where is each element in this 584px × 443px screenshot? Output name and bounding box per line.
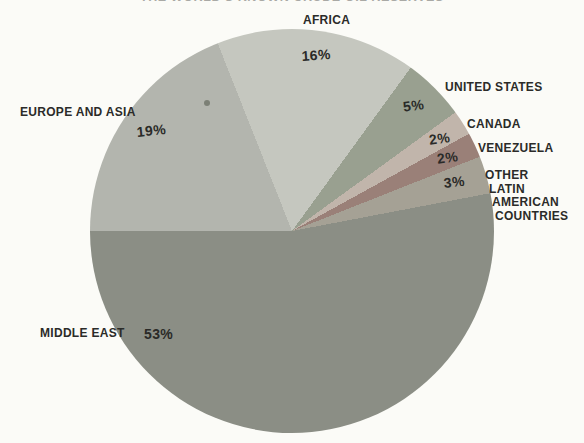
- chart-page: THE WORLD'S KNOWN CRUDE OIL RESERVES AFR…: [0, 0, 584, 443]
- slice-pct-africa: 16%: [301, 46, 331, 64]
- slice-label-other-line-4: COUNTRIES: [485, 210, 568, 224]
- slice-label-other-line-2: LATIN: [485, 183, 568, 197]
- slice-pct-canada: 2%: [428, 129, 451, 148]
- slice-pct-middle-east: 53%: [144, 326, 173, 342]
- slice-label-africa: AFRICA: [303, 13, 350, 27]
- slice-label-canada: CANADA: [467, 117, 521, 131]
- slice-label-venezuela: VENEZUELA: [478, 141, 553, 155]
- pie-chart: [90, 29, 494, 433]
- slice-pct-united-states: 5%: [402, 96, 425, 115]
- slice-pct-europe-and-asia: 19%: [136, 121, 167, 140]
- slice-pct-venezuela: 2%: [436, 148, 459, 167]
- slice-pct-other-latin-american-countries: 3%: [443, 173, 466, 191]
- clipped-chart-title: THE WORLD'S KNOWN CRUDE OIL RESERVES: [0, 0, 584, 4]
- slice-label-middle-east: MIDDLE EAST: [40, 326, 125, 340]
- slice-label-united-states: UNITED STATES: [445, 80, 542, 94]
- slice-label-other-line-1: OTHER: [485, 169, 568, 183]
- slice-label-other-line-3: AMERICAN: [485, 196, 568, 210]
- scan-speck: [204, 100, 210, 106]
- slice-label-other-latin-american-countries: OTHER LATIN AMERICAN COUNTRIES: [485, 169, 568, 223]
- slice-label-europe-and-asia: EUROPE AND ASIA: [20, 105, 136, 119]
